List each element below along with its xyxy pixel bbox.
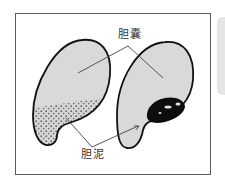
stone-highlight <box>176 103 181 106</box>
left-gallbladder <box>20 40 115 160</box>
right-gallbladder <box>117 42 193 148</box>
gallbladder-diagram <box>0 0 225 186</box>
stone-highlight <box>159 112 162 114</box>
stone-highlight <box>165 106 172 109</box>
label-gallbladder: 胆囊 <box>118 29 141 41</box>
label-sludge: 胆泥 <box>81 149 104 161</box>
